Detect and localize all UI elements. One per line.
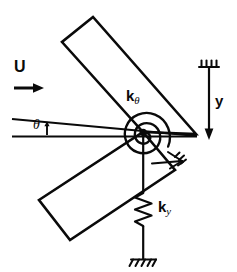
arrow-right-icon xyxy=(33,83,44,93)
upper-plate xyxy=(62,17,196,134)
torsional-spring-label: kθ xyxy=(126,88,140,103)
flow-speed-label: U xyxy=(14,59,26,75)
pitch-angle-label: θ xyxy=(33,118,40,132)
heave-axis-label: y xyxy=(215,93,223,108)
zigzag-spring-icon xyxy=(135,193,152,226)
ground-hatch-icon-top xyxy=(199,61,219,68)
arrow-down-icon xyxy=(205,129,214,141)
torsional-spring-label-subscript: θ xyxy=(134,94,139,106)
translational-spring-label-subscript: y xyxy=(166,205,171,217)
diagram-canvas xyxy=(0,0,237,272)
ground-hatch-icon-bottom xyxy=(130,260,157,267)
translational-spring-label: ky xyxy=(158,199,171,214)
aeroelastic-model-diagram: U θ kθ ky y xyxy=(0,0,237,272)
